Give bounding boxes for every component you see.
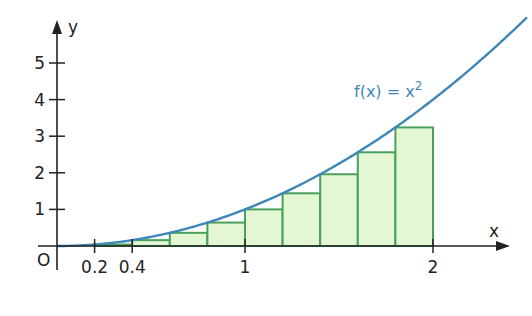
- y-tick-label: 1: [34, 199, 45, 219]
- x-axis-label: x: [489, 221, 499, 241]
- function-label-text: f(x) = x: [354, 82, 415, 101]
- x-tick-label: 2: [428, 257, 439, 277]
- riemann-rectangle: [283, 193, 321, 246]
- riemann-rectangle: [207, 223, 245, 246]
- y-tick-label: 4: [34, 90, 45, 110]
- y-tick-label: 2: [34, 163, 45, 183]
- y-axis-label: y: [68, 17, 78, 37]
- riemann-rectangle: [132, 240, 170, 246]
- riemann-rectangle: [395, 127, 433, 246]
- function-label-exponent: 2: [415, 79, 423, 93]
- y-axis-arrow-icon: [52, 20, 62, 34]
- x-axis-arrow-icon: [496, 241, 510, 251]
- riemann-rectangle: [245, 209, 283, 246]
- function-label: f(x) = x2: [354, 79, 422, 101]
- plot-canvas: 0.20.412 12345 y x O f(x) = x2: [0, 0, 532, 316]
- riemann-rectangle: [170, 233, 208, 246]
- y-tick-label: 3: [34, 126, 45, 146]
- riemann-rectangle: [320, 174, 358, 246]
- x-tick-label: 0.4: [119, 257, 146, 277]
- riemann-rectangles: [95, 127, 433, 246]
- x-tick-label: 1: [240, 257, 251, 277]
- y-tick-label: 5: [34, 53, 45, 73]
- riemann-sum-diagram: 0.20.412 12345 y x O f(x) = x2: [0, 0, 532, 316]
- riemann-rectangle: [358, 152, 396, 246]
- y-ticks: 12345: [34, 53, 65, 219]
- origin-label: O: [37, 250, 50, 270]
- x-tick-label: 0.2: [81, 257, 108, 277]
